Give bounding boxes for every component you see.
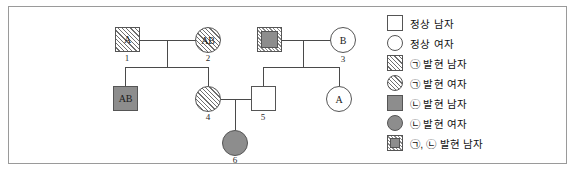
pedigree-figure-frame: A 1 AB 2 B 3 AB 4 5 A bbox=[8, 6, 567, 164]
descent-line-right-couple bbox=[303, 40, 304, 67]
generation2-son-ab-symbol[interactable]: AB bbox=[113, 86, 138, 111]
legend-label-trait-b-female: ㉡ 발현 여자 bbox=[410, 116, 467, 131]
descent-line-1-2 bbox=[167, 40, 168, 67]
descent-line-4-5 bbox=[235, 99, 236, 130]
individual-2-genotype-label: AB bbox=[196, 28, 220, 52]
legend-label-trait-ab-male: ㉠, ㉡ 발현 남자 bbox=[410, 136, 484, 151]
legend-item-normal-female: 정상 여자 bbox=[387, 33, 563, 53]
individual-3-genotype-label: B bbox=[331, 28, 355, 52]
legend: 정상 남자 정상 여자 ㉠ 발현 남자 ㉠ 발현 여자 ㉡ 발현 남자 ㉡ 발현… bbox=[387, 13, 563, 153]
legend-item-trait-ab-male: ㉠, ㉡ 발현 남자 bbox=[387, 133, 563, 153]
square-dual-icon bbox=[387, 135, 403, 151]
square-filled-icon bbox=[387, 95, 403, 111]
individual-6-symbol[interactable] bbox=[222, 130, 248, 156]
individual-5-symbol[interactable] bbox=[251, 86, 276, 111]
sibship-line-1-2 bbox=[125, 67, 209, 68]
legend-label-trait-a-female: ㉠ 발현 여자 bbox=[410, 76, 467, 91]
individual-4-number: 4 bbox=[197, 112, 219, 122]
individual-2-number: 2 bbox=[197, 53, 219, 63]
legend-item-trait-b-male: ㉡ 발현 남자 bbox=[387, 93, 563, 113]
individual-2-symbol[interactable]: AB bbox=[195, 27, 221, 53]
legend-item-trait-a-male: ㉠ 발현 남자 bbox=[387, 53, 563, 73]
circle-open-icon bbox=[387, 35, 403, 51]
right-couple-father-symbol[interactable] bbox=[257, 27, 282, 52]
sibline-to-a-daughter bbox=[339, 67, 340, 86]
sibline-to-ab-son bbox=[125, 67, 126, 86]
individual-5-number: 5 bbox=[252, 112, 274, 122]
individual-1-symbol[interactable]: A bbox=[115, 27, 140, 52]
legend-label-normal-female: 정상 여자 bbox=[410, 36, 454, 51]
circle-hatched-icon bbox=[387, 75, 403, 91]
individual-3-number: 3 bbox=[332, 54, 354, 64]
legend-item-normal-male: 정상 남자 bbox=[387, 13, 563, 33]
sibline-to-4 bbox=[208, 67, 209, 86]
pedigree-diagram: A 1 AB 2 B 3 AB 4 5 A bbox=[9, 7, 384, 163]
individual-1-genotype-label: A bbox=[116, 28, 139, 51]
individual-1-number: 1 bbox=[116, 53, 138, 63]
generation2-daughter-a-symbol[interactable]: A bbox=[326, 86, 352, 112]
individual-4-symbol[interactable] bbox=[195, 86, 221, 112]
individual-6-number: 6 bbox=[224, 155, 246, 165]
individual-3-symbol[interactable]: B bbox=[330, 27, 356, 53]
square-dual-inner-fill bbox=[390, 138, 400, 148]
legend-label-normal-male: 정상 남자 bbox=[410, 16, 454, 31]
sibship-line-right-couple bbox=[263, 67, 340, 68]
legend-label-trait-a-male: ㉠ 발현 남자 bbox=[410, 56, 467, 71]
legend-label-trait-b-male: ㉡ 발현 남자 bbox=[410, 96, 467, 111]
mating-line-4-5 bbox=[221, 99, 251, 100]
legend-item-trait-a-female: ㉠ 발현 여자 bbox=[387, 73, 563, 93]
square-open-icon bbox=[387, 15, 403, 31]
circle-filled-icon bbox=[387, 115, 403, 131]
generation2-son-ab-genotype-label: AB bbox=[114, 87, 137, 110]
legend-item-trait-b-female: ㉡ 발현 여자 bbox=[387, 113, 563, 133]
right-couple-father-inner-fill bbox=[261, 31, 278, 48]
sibline-to-5 bbox=[263, 67, 264, 86]
square-hatched-icon bbox=[387, 55, 403, 71]
generation2-daughter-a-genotype-label: A bbox=[327, 87, 351, 111]
mating-line-right-couple bbox=[281, 40, 331, 41]
